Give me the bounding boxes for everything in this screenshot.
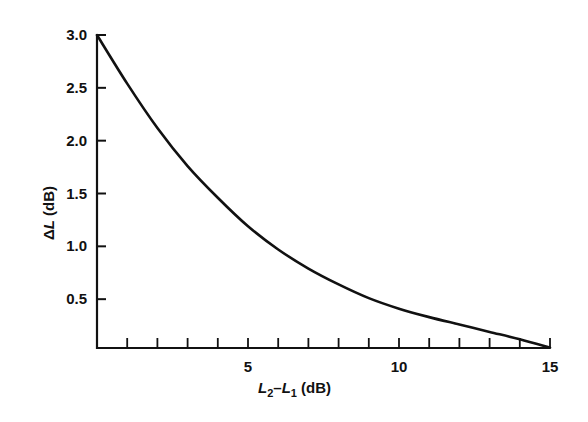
x-ticks [127, 338, 550, 348]
y-tick-label: 2.0 [66, 132, 87, 149]
x-tick-label: 15 [542, 358, 559, 375]
axes [96, 34, 550, 349]
y-tick-label: 0.5 [66, 290, 87, 307]
y-label-var: L [40, 220, 57, 229]
x-label-dash: – [273, 379, 281, 396]
chart: 0.51.01.52.02.53.0 51015 L2–L1 (dB) ΔL (… [0, 0, 588, 422]
y-tick-label: 2.5 [66, 79, 87, 96]
data-curve [97, 35, 550, 348]
y-axis-label: ΔL (dB) [40, 186, 57, 240]
x-tick-label: 10 [391, 358, 408, 375]
y-tick-label: 1.5 [66, 185, 87, 202]
x-label-unit: (dB) [297, 379, 331, 396]
y-tick-labels: 0.51.01.52.02.53.0 [66, 26, 87, 307]
y-tick-label: 3.0 [66, 26, 87, 43]
y-tick-label: 1.0 [66, 237, 87, 254]
x-tick-labels: 51015 [244, 358, 559, 375]
x-label-var-b: L [282, 379, 291, 396]
x-axis-label: L2–L1 (dB) [258, 379, 331, 399]
y-ticks [97, 35, 106, 299]
x-label-var-a: L [258, 379, 267, 396]
x-tick-label: 5 [244, 358, 252, 375]
y-label-delta: Δ [40, 229, 57, 240]
y-label-unit: (dB) [40, 186, 57, 220]
